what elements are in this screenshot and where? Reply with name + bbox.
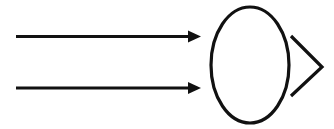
diagram-canvas (0, 0, 334, 129)
diagram-svg (0, 0, 334, 129)
background-rect (0, 0, 334, 129)
